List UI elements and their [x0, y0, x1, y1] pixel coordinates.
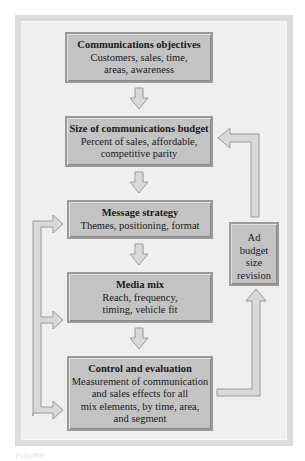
step-title: Media mix	[69, 279, 211, 292]
feedback-arrow-up-icon	[217, 289, 266, 396]
step-body: Themes, positioning, format	[69, 220, 211, 233]
step-media-mix: Media mix Reach, frequency, timing, vehi…	[67, 272, 213, 323]
step-title: Size of communications budget	[67, 123, 211, 136]
down-arrow-icon	[130, 88, 148, 109]
figure-caption: FIGURE	[16, 452, 45, 459]
step-body: Measurement of communication and sales e…	[69, 376, 211, 426]
step-title: Message strategy	[69, 207, 211, 220]
step-title: Control and evaluation	[69, 363, 211, 376]
step-title: Communications objectives	[67, 39, 211, 52]
step-communications-budget: Size of communications budget Percent of…	[65, 116, 213, 167]
left-loop-arrow-icon	[33, 215, 63, 419]
step-control-evaluation: Control and evaluation Measurement of co…	[67, 356, 213, 431]
down-arrow-icon	[130, 172, 148, 193]
step-communications-objectives: Communications objectives Customers, sal…	[65, 32, 213, 83]
down-arrow-icon	[130, 244, 148, 265]
step-body: Reach, frequency, timing, vehicle fit	[69, 292, 211, 317]
step-body: Customers, sales, time, areas, awareness	[67, 52, 211, 77]
feedback-arrow-left-icon	[218, 128, 259, 217]
step-message-strategy: Message strategy Themes, positioning, fo…	[67, 200, 213, 239]
ad-budget-size-revision-box: Ad budget size revision	[229, 222, 279, 286]
step-body: Percent of sales, affordable, competitiv…	[67, 136, 211, 161]
down-arrow-icon	[130, 328, 148, 349]
